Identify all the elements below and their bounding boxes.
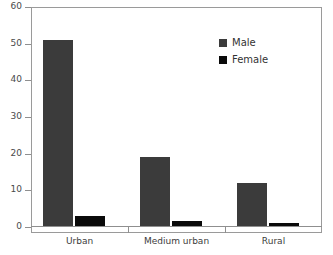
legend-item: Female xyxy=(219,53,268,67)
legend-item: Male xyxy=(219,36,268,50)
bar-urban-male xyxy=(43,40,73,227)
legend-item-label: Male xyxy=(232,38,256,48)
x-axis-category-label: Medium urban xyxy=(128,236,225,247)
legend: MaleFemale xyxy=(219,36,268,70)
legend-item-label: Female xyxy=(232,55,268,65)
y-axis-tick xyxy=(25,227,31,228)
x-axis-category-label: Urban xyxy=(31,236,128,247)
female-swatch-icon xyxy=(219,56,227,64)
y-axis-tick-label: 30 xyxy=(0,112,22,121)
y-axis-tick-label: 0 xyxy=(0,222,22,231)
x-axis-baseline xyxy=(31,226,322,227)
y-axis-tick-label: 40 xyxy=(0,75,22,84)
x-axis-tick xyxy=(128,227,129,233)
bar-medium-urban-male xyxy=(140,157,170,227)
y-axis-tick-label: 20 xyxy=(0,149,22,158)
bar-chart: 0102030405060 UrbanMedium urbanRural Mal… xyxy=(0,0,333,255)
male-swatch-icon xyxy=(219,39,227,47)
bar-rural-male xyxy=(237,183,267,227)
x-axis-category-label: Rural xyxy=(225,236,322,247)
y-axis-tick-label: 10 xyxy=(0,185,22,194)
plot-area xyxy=(31,7,322,227)
y-axis-tick-label: 60 xyxy=(0,2,22,11)
y-axis-tick-label: 50 xyxy=(0,39,22,48)
x-axis-tick xyxy=(225,227,226,233)
